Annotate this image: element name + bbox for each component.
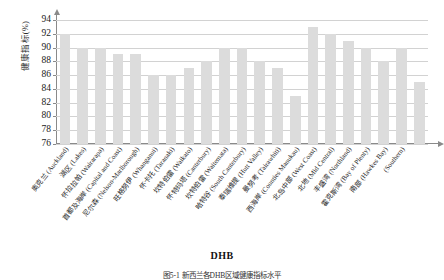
bar-slot (109, 20, 127, 144)
bar-slot (127, 20, 145, 144)
bar-slot (233, 20, 251, 144)
y-tick-label: 84 (42, 84, 52, 94)
bar-slot (322, 20, 340, 144)
bar-slot (375, 20, 393, 144)
bar[interactable] (290, 96, 301, 144)
bar-slot (215, 20, 233, 144)
y-tick-label: 88 (42, 57, 52, 67)
bar[interactable] (361, 48, 372, 144)
bar[interactable] (219, 48, 230, 144)
y-tick-label: 94 (42, 15, 52, 25)
y-tick-label: 82 (42, 98, 52, 108)
y-tick-label: 92 (42, 29, 52, 39)
bar[interactable] (60, 34, 71, 144)
bar[interactable] (113, 54, 124, 144)
bar[interactable] (201, 61, 212, 144)
y-tick-mark (53, 144, 56, 145)
bar-slot (145, 20, 163, 144)
bar-slot (74, 20, 92, 144)
bar-slot (393, 20, 411, 144)
bar[interactable] (343, 41, 354, 144)
y-tick-label: 76 (42, 139, 52, 149)
plot-inner: 76788082848688909294 (56, 20, 428, 144)
y-tick-label: 86 (42, 70, 52, 80)
bar-slot (198, 20, 216, 144)
bar[interactable] (95, 48, 106, 144)
bar[interactable] (237, 48, 248, 144)
bar-slot (91, 20, 109, 144)
bar[interactable] (77, 48, 88, 144)
x-axis-tick-labels: 奥克兰 (Auckland)湖区 (Lakes)怀拉拉帕 (Wairarapa)… (56, 146, 428, 250)
y-tick-label: 80 (42, 112, 52, 122)
bar-slot (162, 20, 180, 144)
bar-slot (357, 20, 375, 144)
bar-slot (251, 20, 269, 144)
bar-slot (340, 20, 358, 144)
bar[interactable] (148, 75, 159, 144)
figure-caption: 图5-1 新西兰各DHB区域健康指标水平 (0, 269, 444, 280)
bar[interactable] (184, 68, 195, 144)
bar[interactable] (396, 48, 407, 144)
bar[interactable] (378, 61, 389, 144)
y-tick-label: 78 (42, 125, 52, 135)
plot-area: 76788082848688909294 (56, 20, 428, 144)
figure-container: 健康指标(%) 76788082848688909294 奥克兰 (Auckla… (0, 0, 444, 280)
bar-slot (180, 20, 198, 144)
bar-slot (269, 20, 287, 144)
x-axis-title: DHB (0, 250, 444, 261)
bar[interactable] (254, 61, 265, 144)
bar-slot (56, 20, 74, 144)
gridline (56, 144, 428, 145)
bar[interactable] (166, 75, 177, 144)
bar[interactable] (414, 82, 425, 144)
bar-series (56, 20, 428, 144)
bar[interactable] (308, 27, 319, 144)
bar[interactable] (130, 54, 141, 144)
bar-slot (286, 20, 304, 144)
y-tick-label: 90 (42, 43, 52, 53)
y-axis-title: 健康指标(%) (18, 0, 30, 106)
bar[interactable] (272, 68, 283, 144)
bar-slot (304, 20, 322, 144)
bar-slot (410, 20, 428, 144)
bar[interactable] (325, 34, 336, 144)
